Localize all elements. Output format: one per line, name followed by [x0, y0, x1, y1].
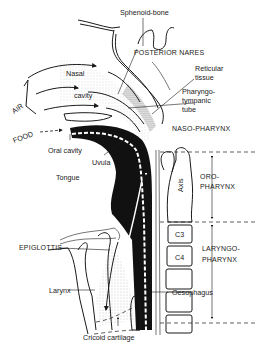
label-larynx: Larynx	[49, 286, 71, 295]
label-nasopharynx: NASO-PHARYNX	[172, 125, 230, 132]
label-laryngopharynx-2: PHARYNX	[202, 256, 237, 263]
food-arrow	[40, 130, 62, 132]
label-tongue: Tongue	[56, 173, 80, 182]
label-uvula: Uvula	[92, 158, 110, 167]
label-axis: Axis	[176, 178, 185, 192]
label-cavity: cavity	[74, 91, 93, 100]
label-pharyngo-1: Pharyngo-	[182, 87, 216, 96]
label-oropharynx-1: ORO-	[200, 173, 220, 180]
cervical-vertebrae	[161, 148, 192, 333]
label-food: FOOD	[12, 129, 35, 145]
label-nasal: Nasal	[66, 69, 85, 78]
label-oesophagus: Oesophagus	[172, 288, 213, 297]
label-air: AIR	[10, 101, 25, 115]
label-laryngopharynx-1: LARYNGO-	[202, 245, 241, 252]
label-sphenoid-bone: Sphenoid-bone	[120, 8, 169, 17]
label-epiglottis: EPIGLOTTIS	[19, 244, 62, 251]
label-cricoid-cartilage: Cricoid cartilage	[83, 333, 135, 342]
pharynx-diagram: Sphenoid-bone POSTERIOR NARES Reticular …	[0, 0, 257, 348]
label-oral-cavity: Oral cavity	[48, 146, 82, 155]
label-oropharynx-2: PHARYNX	[200, 183, 235, 190]
label-pharyngo-3: tube	[182, 105, 196, 114]
label-c3: C3	[175, 230, 184, 239]
label-posterior-nares: POSTERIOR NARES	[134, 49, 204, 56]
hard-palate	[64, 113, 112, 122]
label-reticular-1: Reticular	[195, 64, 224, 73]
label-pharyngo-2: tympanic	[182, 96, 211, 105]
label-c4: C4	[175, 253, 184, 262]
label-reticular-2: tissue	[195, 73, 214, 82]
